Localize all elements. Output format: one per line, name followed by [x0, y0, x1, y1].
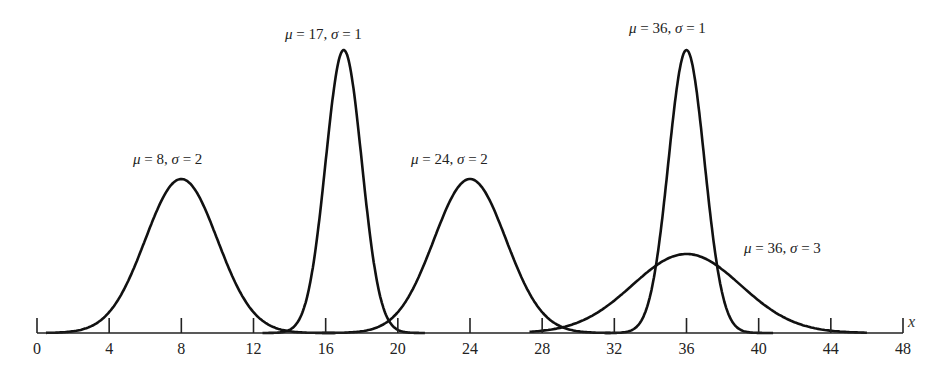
- x-axis: [37, 318, 903, 333]
- curve-0: [46, 179, 335, 333]
- x-tick-label: 20: [390, 340, 406, 358]
- x-axis-label: x: [908, 313, 915, 331]
- curve-label: μ = 17, σ = 1: [285, 26, 362, 43]
- curves: [46, 50, 867, 333]
- x-tick-label: 24: [462, 340, 478, 358]
- x-tick-label: 48: [895, 340, 911, 358]
- x-tick-label: 12: [246, 340, 262, 358]
- x-tick-label: 16: [318, 340, 334, 358]
- x-tick-label: 36: [679, 340, 695, 358]
- x-tick-label: 28: [534, 340, 550, 358]
- x-tick-label: 8: [177, 340, 185, 358]
- curve-4: [530, 254, 867, 333]
- x-tick-label: 4: [105, 340, 113, 358]
- x-tick-label: 40: [751, 340, 767, 358]
- curve-label: μ = 8, σ = 2: [133, 151, 202, 168]
- x-tick-label: 44: [823, 340, 839, 358]
- curve-label: μ = 36, σ = 3: [744, 240, 821, 257]
- curve-1: [263, 50, 425, 333]
- curve-label: μ = 24, σ = 2: [411, 151, 488, 168]
- curve-label: μ = 36, σ = 1: [629, 20, 706, 37]
- x-tick-label: 0: [33, 340, 41, 358]
- x-tick-label: 32: [606, 340, 622, 358]
- normal-distributions-chart: [0, 0, 945, 374]
